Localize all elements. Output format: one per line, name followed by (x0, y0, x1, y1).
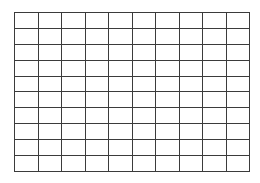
grid-cell[interactable] (132, 124, 156, 140)
grid-cell[interactable] (62, 60, 86, 76)
grid-cell[interactable] (132, 76, 156, 92)
grid-cell[interactable] (62, 92, 86, 108)
grid-cell[interactable] (132, 60, 156, 76)
grid-cell[interactable] (156, 140, 180, 156)
grid-cell[interactable] (226, 108, 250, 124)
grid-cell[interactable] (132, 108, 156, 124)
grid-cell[interactable] (179, 44, 203, 60)
grid-cell[interactable] (109, 140, 133, 156)
grid-cell[interactable] (109, 44, 133, 60)
grid-cell[interactable] (15, 28, 39, 44)
grid-cell[interactable] (109, 92, 133, 108)
grid-cell[interactable] (85, 44, 109, 60)
grid-cell[interactable] (179, 13, 203, 29)
grid-cell[interactable] (38, 92, 62, 108)
grid-cell[interactable] (15, 140, 39, 156)
grid-cell[interactable] (62, 140, 86, 156)
grid-cell[interactable] (226, 124, 250, 140)
grid-cell[interactable] (203, 156, 227, 172)
grid-cell[interactable] (132, 13, 156, 29)
grid-cell[interactable] (156, 13, 180, 29)
grid-cell[interactable] (109, 156, 133, 172)
grid-cell[interactable] (38, 44, 62, 60)
grid-cell[interactable] (109, 60, 133, 76)
grid-cell[interactable] (15, 92, 39, 108)
grid-cell[interactable] (179, 76, 203, 92)
grid-cell[interactable] (85, 124, 109, 140)
grid-cell[interactable] (85, 92, 109, 108)
grid-cell[interactable] (62, 44, 86, 60)
grid-cell[interactable] (226, 92, 250, 108)
grid-cell[interactable] (132, 44, 156, 60)
grid-cell[interactable] (15, 76, 39, 92)
grid-cell[interactable] (132, 140, 156, 156)
grid-cell[interactable] (38, 140, 62, 156)
grid-cell[interactable] (38, 13, 62, 29)
grid-cell[interactable] (62, 156, 86, 172)
grid-cell[interactable] (109, 13, 133, 29)
grid-cell[interactable] (85, 108, 109, 124)
grid-cell[interactable] (109, 28, 133, 44)
grid-cell[interactable] (38, 156, 62, 172)
grid-cell[interactable] (226, 13, 250, 29)
grid-cell[interactable] (62, 76, 86, 92)
grid-cell[interactable] (156, 76, 180, 92)
grid-cell[interactable] (38, 76, 62, 92)
grid-cell[interactable] (226, 76, 250, 92)
grid-cell[interactable] (156, 44, 180, 60)
grid-cell[interactable] (38, 124, 62, 140)
grid-cell[interactable] (109, 108, 133, 124)
grid-cell[interactable] (226, 60, 250, 76)
grid-cell[interactable] (203, 13, 227, 29)
grid-cell[interactable] (156, 92, 180, 108)
grid-cell[interactable] (179, 140, 203, 156)
grid-cell[interactable] (226, 44, 250, 60)
grid-cell[interactable] (109, 124, 133, 140)
grid-cell[interactable] (156, 156, 180, 172)
grid-cell[interactable] (203, 28, 227, 44)
grid-cell[interactable] (38, 108, 62, 124)
grid-cell[interactable] (179, 124, 203, 140)
grid-cell[interactable] (132, 92, 156, 108)
grid-cell[interactable] (85, 76, 109, 92)
grid-cell[interactable] (203, 44, 227, 60)
grid-cell[interactable] (179, 60, 203, 76)
grid-cell[interactable] (156, 108, 180, 124)
grid-cell[interactable] (226, 28, 250, 44)
grid-cell[interactable] (156, 124, 180, 140)
grid-cell[interactable] (132, 156, 156, 172)
grid-cell[interactable] (179, 108, 203, 124)
grid-cell[interactable] (85, 60, 109, 76)
grid-cell[interactable] (226, 140, 250, 156)
grid-cell[interactable] (62, 13, 86, 29)
grid-cell[interactable] (156, 60, 180, 76)
grid-cell[interactable] (203, 140, 227, 156)
grid-cell[interactable] (132, 28, 156, 44)
grid-cell[interactable] (203, 124, 227, 140)
grid-cell[interactable] (62, 28, 86, 44)
grid-cell[interactable] (15, 124, 39, 140)
grid-cell[interactable] (85, 156, 109, 172)
grid-cell[interactable] (62, 124, 86, 140)
grid-cell[interactable] (15, 44, 39, 60)
grid-cell[interactable] (156, 28, 180, 44)
grid-cell[interactable] (85, 28, 109, 44)
grid-cell[interactable] (38, 28, 62, 44)
grid-cell[interactable] (203, 92, 227, 108)
grid-cell[interactable] (15, 156, 39, 172)
grid-cell[interactable] (62, 108, 86, 124)
grid-cell[interactable] (85, 13, 109, 29)
blank-grid-table[interactable] (14, 12, 250, 172)
grid-cell[interactable] (179, 28, 203, 44)
grid-cell[interactable] (226, 156, 250, 172)
grid-cell[interactable] (85, 140, 109, 156)
grid-cell[interactable] (15, 108, 39, 124)
grid-cell[interactable] (203, 108, 227, 124)
grid-cell[interactable] (179, 156, 203, 172)
grid-cell[interactable] (38, 60, 62, 76)
grid-cell[interactable] (109, 76, 133, 92)
grid-cell[interactable] (203, 76, 227, 92)
grid-cell[interactable] (15, 60, 39, 76)
grid-cell[interactable] (179, 92, 203, 108)
grid-cell[interactable] (15, 13, 39, 29)
